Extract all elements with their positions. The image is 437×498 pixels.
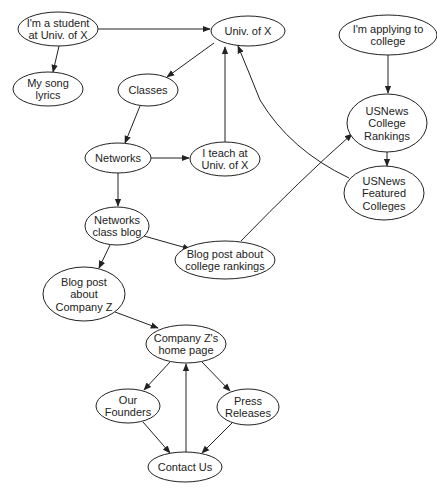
node-label: college xyxy=(371,35,406,47)
node-label: Networks xyxy=(95,152,141,164)
node-label: Univ. of X xyxy=(202,159,250,171)
node-label: Press xyxy=(234,395,263,407)
node-label: My song xyxy=(27,77,69,89)
node-rankpost: Blog post aboutcollege rankings xyxy=(175,241,275,279)
node-label: Colleges xyxy=(363,200,406,212)
edge-press-to-contact xyxy=(202,423,232,453)
node-label: Company Z xyxy=(56,301,113,313)
node-teach: I teach atUniv. of X xyxy=(190,142,260,176)
node-zpost: Blog postaboutCompany Z xyxy=(43,267,125,321)
node-label: home page xyxy=(158,344,213,356)
node-label: Company Z's xyxy=(154,332,219,344)
node-networks: Networks xyxy=(85,143,151,173)
node-label: USNews xyxy=(363,175,406,187)
node-label: I teach at xyxy=(202,147,247,159)
node-zhome: Company Z'shome page xyxy=(146,325,226,363)
node-press: PressReleases xyxy=(217,389,279,425)
node-label: Releases xyxy=(225,407,271,419)
node-label: College xyxy=(368,117,405,129)
node-label: I'm applying to xyxy=(353,23,424,35)
edge-univ-to-classes xyxy=(167,43,214,77)
graph-canvas: I'm a studentat Univ. of XMy songlyricsU… xyxy=(0,0,437,498)
edge-zhome-to-press xyxy=(202,362,230,391)
node-usrank: USNewsCollegeRankings xyxy=(347,94,427,152)
node-student: I'm a studentat Univ. of X xyxy=(18,12,98,46)
node-usfeat: USNewsFeaturedColleges xyxy=(344,166,424,220)
edge-rankpost-to-usrank xyxy=(241,134,352,241)
node-label: Founders xyxy=(105,406,152,418)
node-founders: OurFounders xyxy=(96,389,160,423)
node-blog: Networksclass blog xyxy=(85,207,149,245)
edge-zhome-to-founders xyxy=(144,362,170,390)
node-label: Our xyxy=(119,394,138,406)
node-contact: Contact Us xyxy=(148,452,222,482)
node-label: Rankings xyxy=(364,130,410,142)
node-applying: I'm applying tocollege xyxy=(339,15,437,55)
edge-founders-to-contact xyxy=(143,422,170,453)
node-label: college rankings xyxy=(185,260,265,272)
node-label: about xyxy=(70,288,98,300)
node-label: Blog post xyxy=(61,276,107,288)
edge-zpost-to-zhome xyxy=(115,312,158,328)
node-label: lyrics xyxy=(35,89,61,101)
web-graph-diagram: I'm a studentat Univ. of XMy songlyricsU… xyxy=(0,0,437,498)
node-classes: Classes xyxy=(118,74,178,106)
node-label: class blog xyxy=(93,226,142,238)
node-lyrics: My songlyrics xyxy=(13,72,83,106)
node-univ: Univ. of X xyxy=(211,16,285,46)
node-label: Featured xyxy=(362,187,406,199)
node-label: Classes xyxy=(128,84,168,96)
edge-classes-to-networks xyxy=(125,106,140,143)
edge-student-to-lyrics xyxy=(53,46,59,72)
node-label: at Univ. of X xyxy=(28,29,88,41)
node-label: Contact Us xyxy=(158,461,213,473)
node-label: Univ. of X xyxy=(225,25,273,37)
node-label: I'm a student xyxy=(27,17,90,29)
node-label: Blog post about xyxy=(187,248,263,260)
edge-blog-to-rankpost xyxy=(144,236,190,249)
node-label: Networks xyxy=(94,214,140,226)
edge-blog-to-zpost xyxy=(99,245,110,268)
node-label: USNews xyxy=(366,105,409,117)
